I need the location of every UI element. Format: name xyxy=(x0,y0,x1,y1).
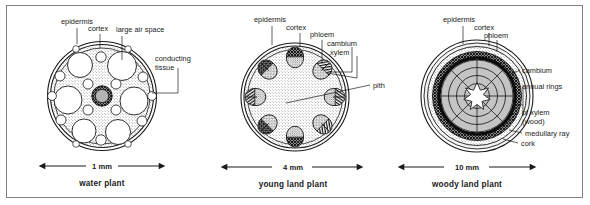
label-water-cortex: cortex xyxy=(88,24,108,33)
label-woody-wood: (wood) xyxy=(522,117,545,126)
label-woody-phloem: phloem xyxy=(484,31,508,40)
label-young-phloem: phloem xyxy=(310,30,334,39)
vascular-bundle xyxy=(286,47,303,68)
water-scale-bar: 1 mm xyxy=(45,162,159,171)
label-young-epidermis: epidermis xyxy=(254,15,286,24)
label-woody-cambium: cambium xyxy=(522,66,552,75)
figure-root: epidermis cortex large air space conduct… xyxy=(0,0,590,205)
label-young-xylem: xylem xyxy=(330,48,349,57)
water-conducting-tissue xyxy=(92,86,112,106)
young-scale-label: 4 mm xyxy=(283,163,303,172)
label-woody-of-xylem: of xylem xyxy=(522,108,550,117)
label-young-pith: pith xyxy=(373,81,385,90)
woody-scale-bar: 10 mm xyxy=(404,163,530,172)
label-young-cambium: cambium xyxy=(327,39,357,48)
panel-young-land-plant: epidermis cortex phloem cambium xylem pi… xyxy=(227,15,385,189)
label-young-cortex: cortex xyxy=(286,23,306,32)
panel-water-plant: epidermis cortex large air space conduct… xyxy=(45,17,191,188)
vascular-bundle xyxy=(286,126,303,147)
label-woody-epidermis: epidermis xyxy=(443,15,475,24)
label-woody-medullary-ray: medullary ray xyxy=(525,129,570,138)
label-woody-cork: cork xyxy=(521,139,535,148)
caption-young-land-plant: young land plant xyxy=(259,180,328,189)
caption-water-plant: water plant xyxy=(78,179,124,188)
label-water-conducting-tissue-line1: conducting xyxy=(155,54,191,63)
woody-scale-label: 10 mm xyxy=(455,163,479,172)
plant-stem-diagram: epidermis cortex large air space conduct… xyxy=(0,0,590,205)
label-water-large-air-space: large air space xyxy=(116,25,164,34)
vascular-bundle xyxy=(245,88,266,105)
panel-woody-land-plant: epidermis cortex phloem cambium annual r… xyxy=(404,15,570,189)
label-woody-annual-rings: annual rings xyxy=(522,82,563,91)
label-water-conducting-tissue-line2: tissue xyxy=(155,63,174,72)
caption-woody-land-plant: woody land plant xyxy=(431,180,502,189)
water-scale-label: 1 mm xyxy=(92,162,112,171)
young-scale-bar: 4 mm xyxy=(227,163,357,172)
